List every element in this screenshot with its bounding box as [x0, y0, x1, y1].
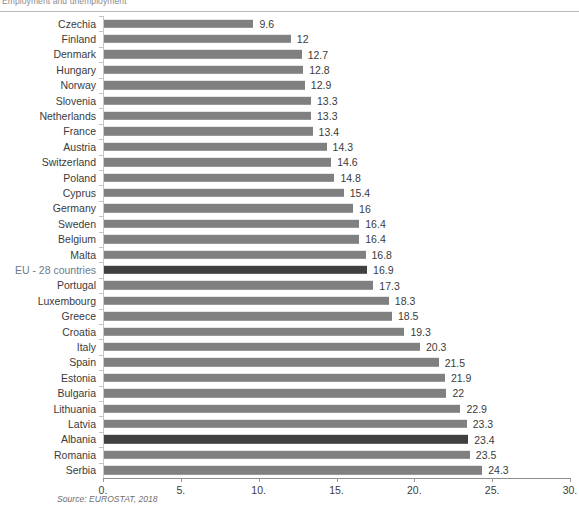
bar-category-label: Belgium — [58, 234, 96, 245]
y-axis-tick — [99, 93, 103, 94]
y-axis-tick — [99, 355, 103, 356]
bar-category-label: Slovenia — [56, 95, 96, 106]
y-axis-tick — [99, 324, 103, 325]
bar: 18.5 — [104, 312, 392, 320]
bar-value-label: 16.9 — [373, 265, 393, 276]
y-axis-tick — [99, 416, 103, 417]
bar-row: EU - 28 countries16.9 — [103, 262, 573, 277]
bar-row: Slovenia13.3 — [103, 93, 573, 108]
y-axis-tick — [99, 108, 103, 109]
y-axis-tick — [99, 139, 103, 140]
x-axis-tick — [259, 478, 260, 482]
bar-category-label: Bulgaria — [57, 388, 96, 399]
y-axis-tick — [99, 432, 103, 433]
bar-value-label: 22 — [452, 388, 464, 399]
bar-category-label: Czechia — [58, 18, 96, 29]
bar-row: Hungary12.8 — [103, 62, 573, 77]
bar: 16.9 — [104, 266, 367, 274]
bar-row: Bulgaria22 — [103, 386, 573, 401]
bar: 13.3 — [104, 96, 311, 104]
x-axis-tick-label: 5. — [176, 484, 185, 496]
y-axis-tick — [99, 201, 103, 202]
bar: 16.4 — [104, 220, 359, 228]
bar-value-label: 14.3 — [333, 142, 353, 153]
bar-category-label: Hungary — [56, 65, 96, 76]
bar-value-label: 13.3 — [317, 111, 337, 122]
source-note: Source: EUROSTAT, 2018 — [57, 494, 158, 504]
bar-row: Poland14.8 — [103, 170, 573, 185]
y-axis-tick — [99, 62, 103, 63]
x-axis-tick-label: 25. — [485, 484, 500, 496]
bar-category-label: Poland — [63, 172, 96, 183]
bar-value-label: 13.3 — [317, 95, 337, 106]
x-axis-tick — [337, 478, 338, 482]
bar-row: Italy20.3 — [103, 339, 573, 354]
bar: 23.4 — [104, 435, 468, 443]
bar-category-label: Luxembourg — [38, 296, 96, 307]
bar-value-label: 12 — [297, 34, 309, 45]
page-header-caption: Employment and unemployment — [2, 0, 127, 6]
y-axis-tick — [99, 47, 103, 48]
page-header-strip: Employment and unemployment — [0, 0, 579, 11]
bar-category-label: France — [63, 126, 96, 137]
bar: 14.8 — [104, 173, 334, 181]
bar: 12 — [104, 35, 291, 43]
bar: 13.4 — [104, 127, 313, 135]
x-axis-tick — [492, 478, 493, 482]
bar-category-label: Austria — [63, 142, 96, 153]
bar-row: Sweden16.4 — [103, 216, 573, 231]
bar-category-label: Germany — [53, 203, 96, 214]
bar-row: Czechia9.6 — [103, 16, 573, 31]
bar-value-label: 16 — [359, 203, 371, 214]
bar-value-label: 21.5 — [445, 357, 465, 368]
bar-value-label: 23.5 — [476, 450, 496, 461]
bar-row: France13.4 — [103, 124, 573, 139]
y-axis-tick — [99, 247, 103, 248]
bar-row: Albania23.4 — [103, 432, 573, 447]
bar-row: Portugal17.3 — [103, 278, 573, 293]
bar-row: Malta16.8 — [103, 247, 573, 262]
bar-row: Germany16 — [103, 201, 573, 216]
bar: 19.3 — [104, 327, 404, 335]
bar-row: Belgium16.4 — [103, 232, 573, 247]
bar-value-label: 14.6 — [337, 157, 357, 168]
bar-category-label: Estonia — [61, 373, 96, 384]
chart-plot-area: Czechia9.6Finland12Denmark12.7Hungary12.… — [103, 16, 573, 478]
x-axis-tick-label: 10. — [251, 484, 266, 496]
bar-row: Spain21.5 — [103, 355, 573, 370]
x-axis-tick — [103, 478, 104, 482]
bar: 24.3 — [104, 466, 482, 474]
y-axis-tick — [99, 262, 103, 263]
y-axis-tick — [99, 401, 103, 402]
bar: 20.3 — [104, 343, 420, 351]
bar: 15.4 — [104, 189, 344, 197]
bar-value-label: 16.4 — [365, 234, 385, 245]
x-axis-tick-label: 30. — [563, 484, 578, 496]
bar-category-label: Albania — [61, 434, 96, 445]
bar-category-label: Denmark — [53, 49, 96, 60]
bar: 16.8 — [104, 250, 366, 258]
bar-value-label: 13.4 — [319, 126, 339, 137]
y-axis-tick — [99, 216, 103, 217]
bar: 13.3 — [104, 112, 311, 120]
bar-category-label: Greece — [62, 311, 96, 322]
bar-value-label: 24.3 — [488, 465, 508, 476]
bar: 22.9 — [104, 404, 460, 412]
bar-category-label: Romania — [54, 450, 96, 461]
y-axis-tick — [99, 278, 103, 279]
y-axis-tick — [99, 31, 103, 32]
bar-row: Norway12.9 — [103, 78, 573, 93]
bar-value-label: 16.8 — [372, 249, 392, 260]
bar: 16 — [104, 204, 353, 212]
header-divider — [0, 11, 579, 12]
bar-category-label: Lithuania — [53, 403, 96, 414]
bar: 12.7 — [104, 50, 302, 58]
bar-value-label: 22.9 — [466, 403, 486, 414]
bar-value-label: 16.4 — [365, 219, 385, 230]
bar-category-label: Sweden — [58, 219, 96, 230]
bar-category-label: Netherlands — [39, 111, 96, 122]
y-axis-tick — [99, 370, 103, 371]
y-axis-tick — [99, 232, 103, 233]
x-axis-tick-label: 20. — [407, 484, 422, 496]
bar-category-label: EU - 28 countries — [15, 265, 96, 276]
